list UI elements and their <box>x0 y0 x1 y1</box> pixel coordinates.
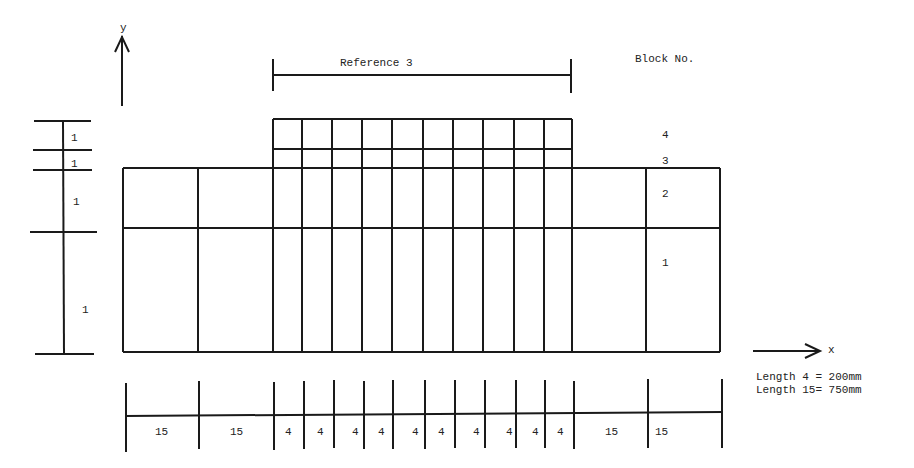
block-number-4: 4 <box>662 129 669 141</box>
bottom-label-2: 4 <box>285 426 292 438</box>
block-number-2: 2 <box>662 188 669 200</box>
left-dimension-label-block3: 1 <box>71 158 78 170</box>
block-number-header: Block No. <box>635 53 694 65</box>
bottom-dimension-line <box>125 379 722 452</box>
y-axis-arrow-icon <box>115 36 129 106</box>
bottom-label-6: 4 <box>412 426 419 438</box>
bottom-label-1: 15 <box>230 426 243 438</box>
bottom-label-4: 4 <box>352 426 359 438</box>
mesh-lower-blocks <box>123 168 720 352</box>
mesh-diagram: y Reference 3 Block No. 4 3 2 1 <box>0 0 914 468</box>
bottom-label-13: 15 <box>655 426 668 438</box>
left-dimension-label-block2: 1 <box>73 196 80 208</box>
y-axis-label: y <box>120 22 127 34</box>
left-dimension-line <box>30 121 97 354</box>
reference-dimension-line <box>273 59 571 93</box>
x-axis-label: x <box>828 344 835 356</box>
bottom-label-11: 4 <box>557 426 564 438</box>
x-axis-arrow-icon <box>753 344 820 358</box>
bottom-label-10: 4 <box>532 426 539 438</box>
bottom-label-12: 15 <box>605 426 618 438</box>
bottom-label-8: 4 <box>473 426 480 438</box>
bottom-label-9: 4 <box>506 426 513 438</box>
bottom-label-0: 15 <box>155 426 168 438</box>
bottom-label-7: 4 <box>438 426 445 438</box>
bottom-label-3: 4 <box>317 426 324 438</box>
legend-length-15: Length 15= 750mm <box>756 384 862 396</box>
legend-length-4: Length 4 = 200mm <box>756 371 862 383</box>
left-dimension-label-block1: 1 <box>82 304 89 316</box>
block-number-1: 1 <box>662 257 669 269</box>
reference-label: Reference 3 <box>340 57 413 69</box>
mesh-upper-blocks <box>273 119 572 352</box>
left-dimension-label-block4: 1 <box>71 132 78 144</box>
bottom-label-5: 4 <box>378 426 385 438</box>
block-number-3: 3 <box>662 155 669 167</box>
